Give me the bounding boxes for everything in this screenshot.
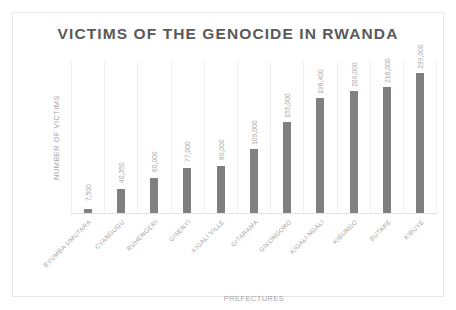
bar-slot: 239,000 [404, 61, 437, 213]
bar-value-label: 40,350 [117, 163, 124, 184]
bar-value-label: 80,000 [217, 139, 224, 160]
category-label: GISENYI [168, 218, 193, 243]
category-slot: BYUMBA-UMUTARA [71, 214, 104, 286]
bar-slot: 7,500 [71, 61, 104, 213]
bar-slot: 209,000 [337, 61, 370, 213]
category-slot: RUHENGERI [138, 214, 171, 286]
bar-slot: 155,000 [271, 61, 304, 213]
bar-value-label: 109,000 [250, 121, 257, 146]
x-axis-title: PREFECTURES [71, 294, 437, 303]
bar-value-label: 239,000 [417, 45, 424, 70]
bar[interactable] [250, 149, 258, 213]
bar-slot: 216,000 [370, 61, 403, 213]
bar-value-label: 77,000 [184, 141, 191, 162]
bar[interactable] [316, 98, 324, 213]
y-axis-title: NUMBER OF VICTIMS [49, 61, 63, 213]
bar-slot: 77,000 [171, 61, 204, 213]
category-slot: GISENYI [171, 214, 204, 286]
bar[interactable] [117, 189, 125, 213]
bar[interactable] [183, 168, 191, 213]
category-slot: GIKONGORO [271, 214, 304, 286]
y-axis-title-text: NUMBER OF VICTIMS [52, 95, 61, 180]
bar-value-label: 209,000 [350, 62, 357, 87]
bar-slot: 196,400 [304, 61, 337, 213]
category-slot: KIBUNGO [337, 214, 370, 286]
chart-frame: VICTIMS OF THE GENOCIDE IN RWANDA NUMBER… [12, 12, 444, 297]
chart-title: VICTIMS OF THE GENOCIDE IN RWANDA [13, 25, 443, 43]
bar-series: 7,50040,35060,00077,00080,000109,000155,… [71, 61, 437, 213]
bar-value-label: 216,000 [384, 58, 391, 83]
category-slot: KIBUYE [404, 214, 437, 286]
category-slot: CYANGUGU [104, 214, 137, 286]
category-slot: KIGALI NGALI [304, 214, 337, 286]
bar-value-label: 196,400 [317, 69, 324, 94]
plot-area: 7,50040,35060,00077,00080,000109,000155,… [71, 61, 437, 213]
bar[interactable] [416, 73, 424, 213]
category-slot: BUTARE [370, 214, 403, 286]
bar-slot: 80,000 [204, 61, 237, 213]
category-label: BYUMBA-UMUTARA [42, 218, 92, 268]
category-label: KIBUYE [402, 218, 425, 241]
bar[interactable] [150, 178, 158, 213]
category-label: BUTARE [368, 218, 392, 242]
bar-slot: 40,350 [104, 61, 137, 213]
category-slot: GITARAMA [237, 214, 270, 286]
category-slot: KIGALI VILLE [204, 214, 237, 286]
bar[interactable] [283, 122, 291, 213]
bar[interactable] [350, 91, 358, 213]
x-axis-category-labels: BYUMBA-UMUTARACYANGUGURUHENGERIGISENYIKI… [71, 214, 437, 286]
bar-value-label: 155,000 [284, 94, 291, 119]
bar[interactable] [217, 166, 225, 213]
bar[interactable] [383, 87, 391, 213]
bar-value-label: 60,000 [151, 151, 158, 172]
bar-slot: 60,000 [138, 61, 171, 213]
bar-value-label: 7,500 [84, 184, 91, 201]
bar-slot: 109,000 [237, 61, 270, 213]
